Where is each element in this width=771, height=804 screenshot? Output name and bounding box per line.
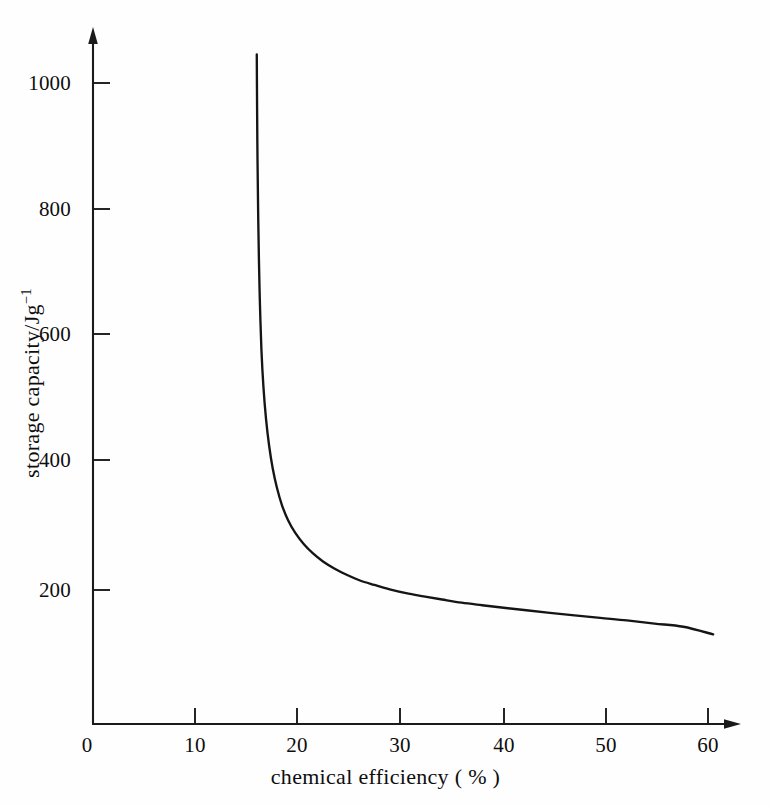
y-tick-label-200: 200 [5, 580, 71, 601]
figure-canvas: 1000 800 600 400 200 0 10 20 30 40 50 60… [0, 0, 771, 804]
x-tick-label-40: 40 [493, 735, 514, 756]
y-axis-arrowhead [88, 27, 98, 44]
x-tick-label-20: 20 [286, 735, 307, 756]
x-axis-arrowhead [724, 719, 741, 729]
x-tick-label-0: 0 [82, 735, 93, 756]
x-tick-label-30: 30 [389, 735, 410, 756]
data-series-line [257, 54, 713, 634]
x-tick-label-10: 10 [184, 735, 205, 756]
y-axis-line-group [88, 27, 98, 724]
y-axis-title-text: storage capacity/Jg [19, 304, 44, 478]
y-axis-title: storage capacity/Jg−1 [19, 233, 45, 533]
x-axis-ticks [195, 708, 708, 724]
plot-svg [0, 0, 771, 804]
x-tick-label-50: 50 [595, 735, 616, 756]
y-tick-label-800: 800 [5, 199, 71, 220]
y-axis-title-superscript: −1 [18, 288, 34, 304]
y-axis-ticks [93, 83, 110, 590]
x-axis-line-group [92, 719, 741, 729]
y-tick-label-1000: 1000 [5, 73, 71, 94]
x-axis-title: chemical efficiency ( % ) [0, 764, 771, 790]
x-tick-label-60: 60 [697, 735, 718, 756]
